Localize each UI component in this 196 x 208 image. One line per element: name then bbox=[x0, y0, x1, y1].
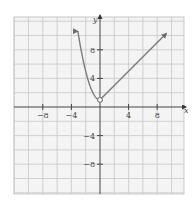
x-tick-label: 8 bbox=[155, 111, 160, 120]
y-tick-label: 4 bbox=[90, 74, 95, 83]
y-tick-label: −4 bbox=[83, 132, 95, 141]
y-axis-label: y bbox=[92, 15, 98, 24]
x-tick-label: −4 bbox=[66, 111, 78, 120]
x-tick-label: 4 bbox=[126, 111, 131, 120]
plot-background bbox=[14, 17, 184, 194]
x-axis-label: x bbox=[184, 106, 189, 115]
x-tick-label: −8 bbox=[37, 111, 49, 120]
function-graph: xy −8−44884−4−8 bbox=[0, 0, 196, 208]
annotations bbox=[98, 97, 103, 102]
y-tick-label: −8 bbox=[83, 160, 95, 169]
y-tick-label: 8 bbox=[90, 46, 95, 55]
open-circle-marker bbox=[98, 97, 103, 102]
